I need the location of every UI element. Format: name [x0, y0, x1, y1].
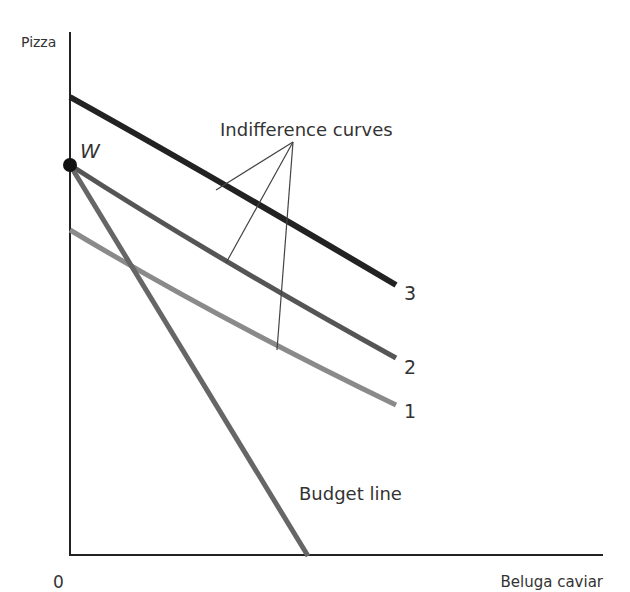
curve-2-label: 2 — [404, 356, 416, 378]
x-axis-label: Beluga caviar — [500, 573, 603, 591]
point-w-label: W — [80, 139, 101, 163]
indifference-curves-annotation: Indifference curves — [220, 119, 393, 140]
budget-line — [70, 165, 308, 556]
point-w-marker — [63, 158, 77, 172]
curve-3-label: 3 — [404, 282, 416, 304]
origin-label: 0 — [53, 572, 64, 592]
pointer-line — [277, 142, 293, 350]
curve-1-label: 1 — [404, 400, 416, 422]
budget-line-annotation: Budget line — [299, 483, 402, 504]
indifference-chart: Pizza Beluga caviar 0 W Indifference cur… — [0, 0, 630, 592]
pointer-line — [226, 142, 293, 263]
pointer-line — [216, 142, 293, 190]
y-axis-label: Pizza — [21, 34, 56, 50]
